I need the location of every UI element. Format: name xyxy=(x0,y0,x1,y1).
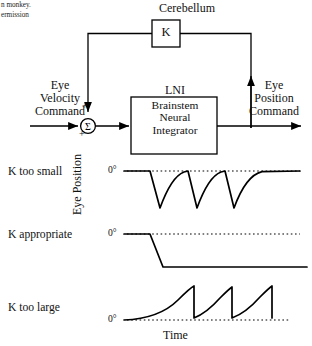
trace-k-too-small xyxy=(124,171,300,208)
integrator-label: Brainstem Neural Integrator xyxy=(133,99,217,136)
trace-k-appropriate xyxy=(124,234,307,267)
lni-label: LNI xyxy=(150,84,200,97)
gain-block-label: K xyxy=(152,26,180,40)
zero-tick-label-1: 0° xyxy=(108,165,117,175)
cerebellum-label: Cerebellum xyxy=(142,2,232,15)
zero-tick-label-3: 0° xyxy=(108,314,117,324)
sum-plus-top-sign: + xyxy=(82,101,88,112)
zero-tick-label-2: 0° xyxy=(108,228,117,238)
plot-row-label-k-appropriate: K appropriate xyxy=(8,229,72,242)
eye-velocity-command-label: Eye Velocity Command xyxy=(14,79,106,118)
y-axis-label: Eye Position xyxy=(71,154,84,215)
eye-position-command-label: Eye Position Command xyxy=(236,79,312,118)
plot-row-label-k-too-large: K too large xyxy=(8,302,60,315)
sum-plus-bottom-sign: + xyxy=(79,129,85,140)
x-axis-label: Time xyxy=(163,329,188,342)
trace-k-too-large xyxy=(124,286,272,320)
sigma-symbol: Σ xyxy=(85,121,91,132)
plot-row-label-k-too-small: K too small xyxy=(8,166,62,179)
